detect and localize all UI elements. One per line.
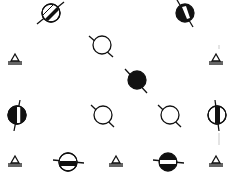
circle-diagonal-bar-icon xyxy=(37,2,64,24)
triangle-icon xyxy=(209,45,223,64)
circle-center-black-bar-icon xyxy=(208,100,226,145)
circle-horizontal-black-bar-icon xyxy=(53,153,84,171)
black-circle-icon xyxy=(125,69,147,93)
triangle-icon xyxy=(209,156,223,166)
triangle-icon xyxy=(8,54,22,64)
triangle-icon xyxy=(109,156,123,166)
black-circle-white-bar-icon xyxy=(176,0,194,27)
half-black-circle-icon xyxy=(8,100,26,131)
black-circle-white-bar-icon xyxy=(153,153,184,171)
open-circle-icon xyxy=(91,105,114,127)
open-circle-icon xyxy=(89,36,113,57)
triangle-icon xyxy=(8,156,22,166)
symbol-diagram xyxy=(0,0,231,175)
open-circle-icon xyxy=(158,105,181,127)
